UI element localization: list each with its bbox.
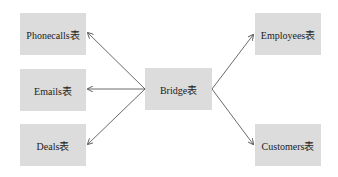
emails-table-box: Emails表 — [20, 69, 86, 111]
phonecalls-table-label: Phonecalls表 — [26, 27, 79, 42]
arrow-to-phonecalls — [88, 33, 145, 89]
employees-table-label: Employees表 — [261, 27, 315, 42]
bridge-table-label: Bridge表 — [160, 82, 197, 97]
employees-table-box: Employees表 — [255, 13, 321, 55]
emails-table-label: Emails表 — [34, 83, 72, 98]
arrow-to-employees — [212, 35, 253, 89]
deals-table-label: Deals表 — [37, 138, 70, 153]
arrow-to-deals — [88, 89, 145, 144]
deals-table-box: Deals表 — [20, 124, 86, 166]
arrow-to-customers — [212, 89, 253, 144]
customers-table-label: Customers表 — [262, 138, 315, 153]
customers-table-box: Customers表 — [255, 124, 321, 166]
phonecalls-table-box: Phonecalls表 — [20, 13, 86, 55]
bridge-table-box: Bridge表 — [145, 68, 212, 110]
